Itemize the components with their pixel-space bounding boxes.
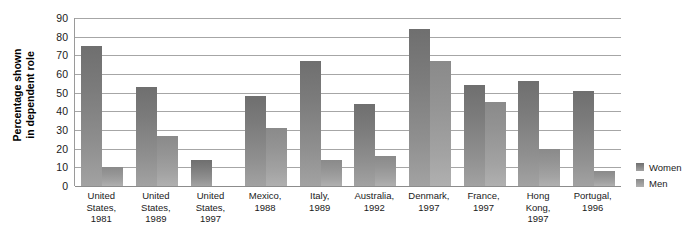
legend-swatch-icon — [636, 179, 644, 187]
bar-group — [573, 18, 615, 186]
legend-label: Men — [649, 178, 667, 189]
legend-label: Women — [649, 162, 682, 173]
x-tick-label-line: 1988 — [255, 202, 276, 213]
x-tick-label-line: 1997 — [418, 202, 439, 213]
x-tick-label: Italy,1989 — [292, 190, 347, 213]
axis-baseline — [75, 186, 621, 187]
x-tick-label-line: Portugal, — [574, 190, 612, 201]
x-tick-label-line: States, — [87, 202, 117, 213]
y-axis-title-line2: in dependent role — [24, 51, 36, 139]
x-tick-label-line: Kong, — [526, 202, 551, 213]
x-tick-label-line: Denmark, — [408, 190, 449, 201]
x-tick-label-line: United — [197, 190, 224, 201]
bar-men — [157, 136, 178, 186]
y-tick-label: 0 — [44, 181, 68, 192]
x-tick-label-line: 1989 — [309, 202, 330, 213]
y-tick-label: 10 — [44, 162, 68, 173]
x-tick-label: Mexico,1988 — [238, 190, 293, 213]
bar-chart: Percentage shown in dependent role 01020… — [0, 0, 690, 238]
y-tick-label: 60 — [44, 69, 68, 80]
y-tick-label: 40 — [44, 106, 68, 117]
x-tick-label-line: 1997 — [473, 202, 494, 213]
bar-women — [409, 29, 430, 186]
bar-women — [300, 61, 321, 186]
bar-men — [430, 61, 451, 186]
x-tick-label: Portugal,1996 — [565, 190, 620, 213]
y-axis-title: Percentage shown in dependent role — [0, 0, 48, 190]
x-tick-label-line: Mexico, — [249, 190, 282, 201]
x-tick-label-line: United — [88, 190, 115, 201]
bar-men — [266, 128, 287, 186]
bar-women — [191, 160, 212, 186]
x-tick-label-line: 1996 — [582, 202, 603, 213]
x-tick-label: France,1997 — [456, 190, 511, 213]
bar-group — [464, 18, 506, 186]
x-tick-label: HongKong,1997 — [511, 190, 566, 225]
x-tick-label-line: 1997 — [528, 213, 549, 224]
bar-women — [518, 81, 539, 186]
bar-women — [464, 85, 485, 186]
bar-group — [136, 18, 178, 186]
x-tick-label-line: 1989 — [145, 213, 166, 224]
x-tick-label-line: Italy, — [310, 190, 329, 201]
bar-men — [102, 167, 123, 186]
x-tick-label: UnitedStates,1981 — [74, 190, 129, 225]
bar-group — [300, 18, 342, 186]
y-tick-label: 70 — [44, 50, 68, 61]
x-tick-label-line: Australia, — [354, 190, 394, 201]
x-tick-label-line: United — [142, 190, 169, 201]
bar-women — [354, 104, 375, 186]
x-tick-label-line: 1992 — [364, 202, 385, 213]
legend-item: Men — [636, 176, 682, 190]
bar-women — [81, 46, 102, 186]
y-axis-ticks: 0102030405060708090 — [42, 0, 68, 238]
x-tick-label-line: France, — [467, 190, 499, 201]
bar-group — [191, 18, 233, 186]
x-tick-label-line: States, — [196, 202, 226, 213]
bar-group — [518, 18, 560, 186]
x-tick-label-line: States, — [141, 202, 171, 213]
bar-group — [354, 18, 396, 186]
x-tick-label-line: 1997 — [200, 213, 221, 224]
y-tick-label: 50 — [44, 87, 68, 98]
bar-women — [136, 87, 157, 186]
y-tick-label: 30 — [44, 125, 68, 136]
x-tick-label: Denmark,1997 — [402, 190, 457, 213]
bar-men — [321, 160, 342, 186]
x-tick-label-line: 1981 — [91, 213, 112, 224]
y-tick-label: 90 — [44, 13, 68, 24]
bar-women — [245, 96, 266, 186]
bar-group — [81, 18, 123, 186]
bar-men — [375, 156, 396, 186]
y-tick-label: 20 — [44, 143, 68, 154]
legend-swatch-icon — [636, 163, 644, 171]
x-tick-label: Australia,1992 — [347, 190, 402, 213]
bar-group — [409, 18, 451, 186]
y-tick-label: 80 — [44, 31, 68, 42]
x-axis-labels: UnitedStates,1981UnitedStates,1989United… — [74, 190, 620, 238]
legend: WomenMen — [636, 160, 682, 192]
bar-men — [594, 171, 615, 186]
bar-men — [539, 149, 560, 186]
x-tick-label-line: Hong — [527, 190, 550, 201]
legend-item: Women — [636, 160, 682, 174]
bar-women — [573, 91, 594, 186]
bar-group — [245, 18, 287, 186]
x-tick-label: UnitedStates,1989 — [129, 190, 184, 225]
plot-area — [74, 18, 621, 186]
x-tick-label: UnitedStates,1997 — [183, 190, 238, 225]
y-axis-title-line1: Percentage shown — [11, 49, 23, 142]
bar-men — [485, 102, 506, 186]
